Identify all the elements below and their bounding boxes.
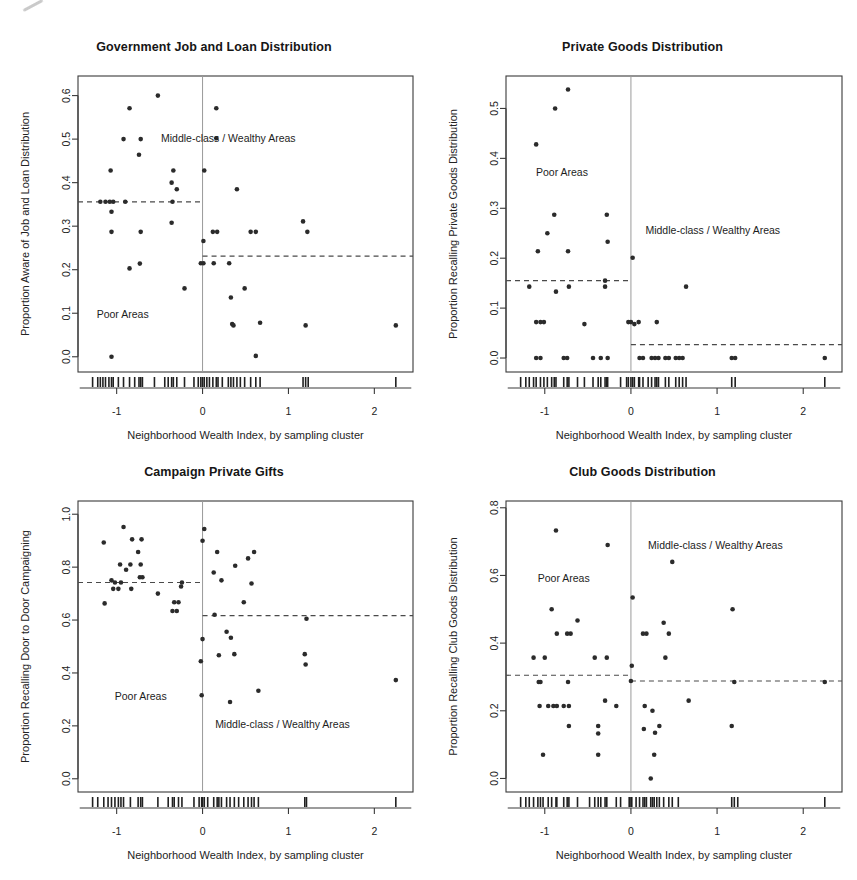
data-point bbox=[215, 230, 220, 235]
data-point bbox=[254, 354, 259, 359]
data-point bbox=[568, 631, 573, 636]
data-point bbox=[680, 356, 685, 361]
data-point bbox=[605, 239, 610, 244]
data-point bbox=[211, 230, 216, 235]
y-axis-title: Proportion Recalling Club Goods Distribu… bbox=[447, 537, 459, 755]
data-point bbox=[109, 210, 114, 215]
data-point bbox=[241, 600, 246, 605]
panel-club-goods: Club Goods Distribution 0.00.20.40.60.8-… bbox=[428, 465, 857, 880]
x-tick-label: -1 bbox=[112, 405, 121, 417]
plot-frame bbox=[78, 76, 413, 372]
data-point bbox=[567, 284, 572, 289]
data-point bbox=[137, 152, 142, 157]
data-point bbox=[630, 595, 635, 600]
data-point bbox=[305, 230, 310, 235]
y-tick-label: 0.8 bbox=[488, 500, 500, 515]
data-point bbox=[670, 560, 675, 565]
data-point bbox=[139, 537, 144, 542]
data-point bbox=[546, 704, 551, 709]
data-point bbox=[179, 584, 184, 589]
x-tick-label: 1 bbox=[714, 405, 720, 417]
data-point bbox=[111, 587, 116, 592]
y-tick-label: 0.2 bbox=[488, 251, 500, 266]
annotation-label: Poor Areas bbox=[97, 308, 149, 320]
data-point bbox=[653, 730, 658, 735]
data-point bbox=[549, 607, 554, 612]
data-point bbox=[657, 724, 662, 729]
data-point bbox=[249, 581, 254, 586]
data-point bbox=[108, 168, 113, 173]
y-tick-label: 0.0 bbox=[60, 771, 72, 786]
data-point bbox=[224, 629, 229, 634]
y-tick-label: 0.5 bbox=[488, 101, 500, 116]
x-tick-label: 1 bbox=[286, 825, 292, 837]
data-point bbox=[200, 637, 205, 642]
y-axis-title: Proportion Aware of Job and Loan Distrib… bbox=[19, 112, 31, 336]
data-point bbox=[211, 570, 216, 575]
data-point bbox=[180, 580, 185, 585]
y-tick-label: 0.0 bbox=[488, 771, 500, 786]
data-point bbox=[629, 679, 634, 684]
y-tick-label: 0.4 bbox=[488, 636, 500, 651]
data-point bbox=[541, 752, 546, 757]
data-point bbox=[304, 616, 309, 621]
data-point bbox=[303, 323, 308, 328]
plot-area-bottom-right: 0.00.20.40.60.8-1012Poor AreasMiddle-cla… bbox=[447, 500, 842, 861]
data-point bbox=[641, 356, 646, 361]
y-tick-label: 0.6 bbox=[60, 88, 72, 103]
data-point bbox=[394, 323, 399, 328]
data-point bbox=[636, 320, 641, 325]
data-point bbox=[566, 87, 571, 92]
data-point bbox=[566, 249, 571, 254]
x-tick-label: 0 bbox=[200, 405, 206, 417]
data-point bbox=[118, 562, 123, 567]
data-point bbox=[248, 230, 253, 235]
data-point bbox=[732, 680, 737, 685]
data-point bbox=[603, 698, 608, 703]
data-point bbox=[596, 724, 601, 729]
data-point bbox=[254, 230, 259, 235]
data-point bbox=[130, 537, 135, 542]
data-point bbox=[729, 724, 734, 729]
data-point bbox=[630, 255, 635, 260]
data-point bbox=[554, 528, 559, 533]
x-axis-title: Neighborhood Wealth Index, by sampling c… bbox=[556, 849, 793, 861]
data-point bbox=[119, 580, 124, 585]
data-point bbox=[592, 655, 597, 660]
y-tick-label: 0.6 bbox=[488, 568, 500, 583]
y-tick-label: 0.2 bbox=[60, 262, 72, 277]
x-tick-label: -1 bbox=[540, 405, 549, 417]
plot-area-top-left: 0.00.10.20.30.40.50.6-1012Poor AreasMidd… bbox=[19, 76, 413, 441]
data-point bbox=[258, 321, 263, 326]
x-tick-label: 2 bbox=[800, 825, 806, 837]
x-tick-label: -1 bbox=[540, 825, 549, 837]
data-point bbox=[605, 356, 610, 361]
data-point bbox=[199, 693, 204, 698]
data-point bbox=[566, 680, 571, 685]
data-point bbox=[596, 752, 601, 757]
data-point bbox=[531, 655, 536, 660]
x-tick-label: 0 bbox=[628, 405, 634, 417]
x-tick-label: -1 bbox=[112, 825, 121, 837]
annotation-label: Middle-class / Wealthy Areas bbox=[645, 224, 780, 236]
figure-four-panel-scatter-grid: Government Job and Loan Distribution 0.0… bbox=[0, 0, 857, 880]
data-point bbox=[170, 609, 175, 614]
x-tick-label: 1 bbox=[714, 825, 720, 837]
y-tick-label: 0.5 bbox=[60, 132, 72, 147]
data-point bbox=[582, 322, 587, 327]
data-point bbox=[536, 249, 541, 254]
data-point bbox=[169, 220, 174, 225]
data-point bbox=[129, 587, 134, 592]
data-point bbox=[201, 261, 206, 266]
data-point bbox=[123, 200, 128, 205]
data-point bbox=[554, 289, 559, 294]
data-point bbox=[235, 187, 240, 192]
data-point bbox=[629, 663, 634, 668]
annotation-label: Poor Areas bbox=[536, 166, 588, 178]
data-point bbox=[127, 266, 132, 271]
data-point bbox=[538, 680, 543, 685]
data-point bbox=[246, 556, 251, 561]
x-axis-title: Neighborhood Wealth Index, by sampling c… bbox=[556, 429, 793, 441]
data-point bbox=[684, 284, 689, 289]
data-point bbox=[552, 212, 557, 217]
